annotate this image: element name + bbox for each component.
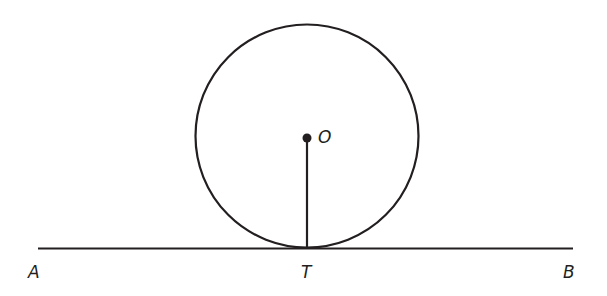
tangent-diagram: O A T B [0,0,607,296]
label-o: O [318,127,331,147]
center-point-o [303,134,312,143]
label-t: T [301,262,313,282]
label-a: A [27,262,40,282]
label-b: B [563,262,575,282]
